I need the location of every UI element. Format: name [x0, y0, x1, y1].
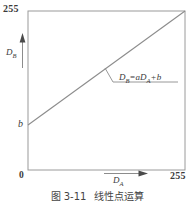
transfer-function-line: [28, 11, 185, 125]
y-intercept-label: b: [18, 119, 23, 129]
x-axis-label-subscript: A: [120, 180, 124, 187]
x-axis-arrow-icon: [104, 171, 148, 177]
figure-caption: 图 3-11线性点运算: [0, 192, 195, 202]
y-axis-max-tick-label: 255: [3, 4, 19, 14]
equation-rhs-subscript: A: [147, 77, 151, 84]
figure-linear-point-operation: 255 0 255 b DB DA DB=aDA+b 图 3-11线性点运算: [0, 0, 195, 211]
equation-annotation: DB=aDA+b: [119, 73, 161, 84]
x-axis-label: DA: [113, 176, 123, 187]
x-axis-max-tick-label: 255: [170, 171, 186, 181]
y-axis-arrow-icon: [20, 33, 26, 68]
caption-number: 图 3-11: [51, 191, 87, 202]
plot-area: [0, 0, 195, 211]
y-axis-label-subscript: B: [13, 52, 17, 59]
origin-tick-label: 0: [19, 171, 24, 181]
y-axis-label: DB: [6, 48, 16, 59]
caption-title: 线性点运算: [94, 191, 144, 202]
equation-constant: b: [157, 72, 162, 82]
plot-frame: [28, 11, 185, 170]
